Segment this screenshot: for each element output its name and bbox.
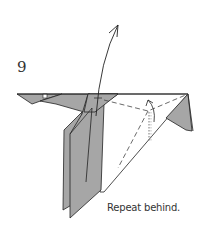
caption-repeat-behind: Repeat behind. bbox=[107, 202, 180, 213]
beak-white-square bbox=[43, 94, 47, 98]
step-number: 9 bbox=[17, 58, 27, 76]
origami-diagram bbox=[0, 0, 204, 232]
